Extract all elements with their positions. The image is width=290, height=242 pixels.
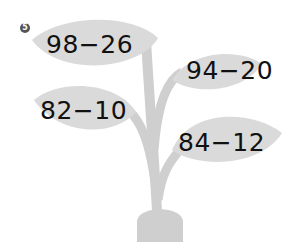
expression-top-left: 98−26: [46, 30, 133, 59]
right-branch-lower: [158, 152, 178, 200]
pot: [137, 209, 183, 242]
expression-middle-left: 82−10: [40, 96, 127, 125]
expression-top-right: 94−20: [186, 56, 273, 85]
expression-bottom-right: 84−12: [178, 128, 265, 157]
problem-number-badge: 5: [20, 23, 30, 33]
plant-worksheet: 5 98−26 94−20 82−10 84−12: [0, 0, 290, 242]
